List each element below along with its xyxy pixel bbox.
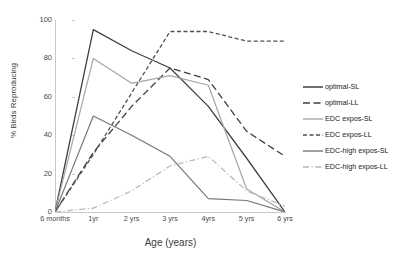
legend-item-edc-high-expos-sl[interactable]: EDC-high expos-SL <box>303 143 404 159</box>
legend-line-swatch <box>303 130 323 140</box>
series-line-edc-expos-sl <box>55 58 285 212</box>
series-line-optimal-sl <box>55 30 285 212</box>
series-line-edc-expos-ll <box>55 32 285 212</box>
legend-line-swatch <box>303 162 323 172</box>
x-tick-label: 2 yrs <box>124 215 140 222</box>
x-tick-label: 6 months <box>40 215 70 222</box>
x-tick-label: 1yr <box>88 215 98 222</box>
series-line-optimal-ll <box>55 68 285 212</box>
chart-root: 020406080100 6 months1yr2 yrs3 yrs4yrs5 … <box>0 0 404 262</box>
legend: optimal-SLoptimal-LLEDC expos-SLEDC expo… <box>303 79 404 175</box>
legend-line-swatch <box>303 146 323 156</box>
legend-item-label: EDC expos-SL <box>325 115 373 122</box>
x-axis-title: Age (years) <box>55 237 286 248</box>
y-tick-label: 40 <box>26 131 52 139</box>
legend-item-optimal-ll[interactable]: optimal-LL <box>303 95 404 111</box>
x-tick-label: 6 yrs <box>277 215 293 222</box>
legend-item-optimal-sl[interactable]: optimal-SL <box>303 79 404 95</box>
y-tick-label: 100 <box>26 16 52 24</box>
legend-item-label: EDC expos-LL <box>325 131 372 138</box>
legend-item-edc-expos-ll[interactable]: EDC expos-LL <box>303 127 404 143</box>
legend-item-label: optimal-SL <box>325 83 359 90</box>
legend-item-label: optimal-LL <box>325 99 359 106</box>
legend-item-label: EDC-high expos-SL <box>325 147 389 154</box>
x-axis-ticks: 6 months1yr2 yrs3 yrs4yrs5 yrs6 yrs <box>55 215 286 229</box>
series-lines <box>55 20 285 212</box>
legend-item-label: EDC-high expos-LL <box>325 163 388 170</box>
y-axis-title: % Birds Reproducing <box>9 41 18 161</box>
legend-item-edc-high-expos-ll[interactable]: EDC-high expos-LL <box>303 159 404 175</box>
legend-line-swatch <box>303 114 323 124</box>
legend-line-swatch <box>303 82 323 92</box>
y-axis-ticks: 020406080100 <box>20 20 52 212</box>
x-tick-label: 4yrs <box>202 215 216 222</box>
x-tick-label: 3 yrs <box>162 215 178 222</box>
y-tick-label: 80 <box>26 54 52 62</box>
y-tick-label: 60 <box>26 93 52 101</box>
legend-line-swatch <box>303 98 323 108</box>
x-axis-line <box>55 212 286 213</box>
y-tick-label: 20 <box>26 170 52 178</box>
plot-area <box>55 20 285 212</box>
legend-item-edc-expos-sl[interactable]: EDC expos-SL <box>303 111 404 127</box>
x-tick-label: 5 yrs <box>239 215 255 222</box>
